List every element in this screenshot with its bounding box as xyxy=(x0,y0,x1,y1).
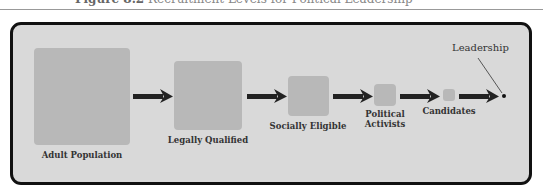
arrow-icon xyxy=(333,89,373,103)
socially-eligible-box xyxy=(288,76,329,116)
leadership-label: Leadership xyxy=(452,42,509,53)
figure-title: Figure 8.2 Recruitment Levels for Politi… xyxy=(0,0,543,8)
political-activists-box xyxy=(374,84,396,106)
adult-population-label: Adult Population xyxy=(34,150,130,160)
arrow-icon xyxy=(133,89,173,103)
adult-population-box xyxy=(34,48,130,145)
figure-number: Figure 8.2 xyxy=(75,0,144,6)
legally-qualified-label: Legally Qualified xyxy=(163,135,253,145)
legally-qualified-box xyxy=(174,61,242,130)
leader-line-icon xyxy=(470,55,510,100)
arrow-icon xyxy=(247,89,287,103)
title-divider xyxy=(0,9,543,10)
candidates-box xyxy=(443,89,455,101)
candidates-label: Candidates xyxy=(419,106,479,116)
political-activists-label: Political Activists xyxy=(355,109,415,129)
socially-eligible-label: Socially Eligible xyxy=(263,121,353,131)
arrow-icon xyxy=(400,89,440,103)
figure-caption: Recruitment Levels for Political Leaders… xyxy=(148,0,413,6)
